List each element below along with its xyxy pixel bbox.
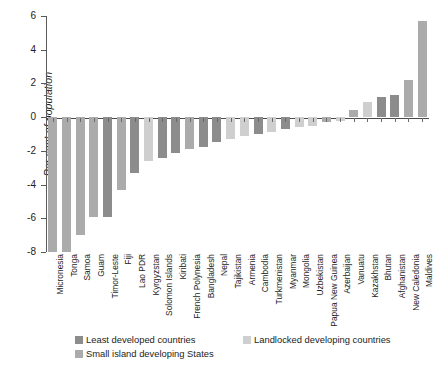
x-tick [121, 118, 122, 122]
bar [103, 117, 112, 216]
x-axis-label: Timor-Leste [111, 254, 119, 298]
bar [418, 21, 427, 117]
legend-item: Least developed countries [75, 334, 195, 345]
x-tick [244, 118, 245, 122]
x-tick [53, 118, 54, 122]
x-tick [231, 118, 232, 122]
x-tick [422, 118, 423, 122]
x-axis-label: Fiji [124, 254, 132, 265]
x-axis-label: Tajikistan [234, 254, 242, 288]
x-axis-label: Papua New Guinea [330, 254, 338, 327]
x-tick [285, 118, 286, 122]
x-tick [67, 118, 68, 122]
x-axis-label: Kyrgyzstan [152, 254, 160, 295]
x-axis-label: Afghanistan [398, 254, 406, 298]
x-tick [408, 118, 409, 122]
x-axis-label: Lao PDR [138, 254, 146, 288]
x-axis-label: Solomon Islands [165, 254, 173, 316]
legend-label: Landlocked developing countries [254, 334, 391, 345]
x-axis-label: Turkmenistan [275, 254, 283, 304]
x-axis-label: Vanuatu [357, 254, 365, 285]
bar [144, 117, 153, 161]
y-tick [41, 252, 46, 253]
x-tick [149, 118, 150, 122]
x-axis-label: Bangladesh [207, 254, 215, 298]
chart-container: Per cent of population 6420-2-4-6-8 Micr… [0, 0, 441, 369]
chart-legend: Least developed countriesLandlocked deve… [0, 332, 441, 366]
x-axis-label: Cambodia [261, 254, 269, 292]
y-tick-label: -4 [0, 179, 36, 190]
x-axis-label: Armenia [248, 254, 256, 285]
x-axis-label: Micronesia [56, 254, 64, 295]
x-tick [94, 118, 95, 122]
x-tick [326, 118, 327, 122]
bar [390, 95, 399, 117]
x-axis-labels: MicronesiaTongaSamoaGuamTimor-LesteFijiL… [46, 254, 429, 330]
legend-label: Small island developing States [86, 348, 214, 359]
bar [377, 97, 386, 117]
x-axis-label: Guam [97, 254, 105, 277]
x-tick [258, 118, 259, 122]
x-tick [190, 118, 191, 122]
x-axis-label: Bhutan [384, 254, 392, 281]
bar [158, 117, 167, 157]
y-tick-label: -6 [0, 212, 36, 223]
x-tick [135, 118, 136, 122]
bar [117, 117, 126, 189]
legend-item: Small island developing States [75, 348, 214, 359]
legend-swatch [243, 336, 251, 344]
x-tick [203, 118, 204, 122]
bar [48, 117, 57, 252]
x-tick [108, 118, 109, 122]
y-tick-label: 0 [0, 111, 36, 122]
plot-area [46, 16, 429, 252]
x-tick [313, 118, 314, 122]
legend-swatch [75, 350, 83, 358]
x-tick [354, 118, 355, 122]
x-axis-label: Kazakhstan [371, 254, 379, 298]
x-axis-label: New Caledonia [412, 254, 420, 311]
bar [62, 117, 71, 252]
x-tick [80, 118, 81, 122]
x-axis-label: French Polynesia [193, 254, 201, 319]
x-tick [340, 118, 341, 122]
x-tick [217, 118, 218, 122]
x-tick [162, 118, 163, 122]
legend-label: Least developed countries [86, 334, 195, 345]
x-axis-label: Maldives [425, 254, 433, 287]
x-tick [176, 118, 177, 122]
y-tick-label: 4 [0, 44, 36, 55]
x-axis-label: Mongolia [302, 254, 310, 288]
y-tick-label: 6 [0, 10, 36, 21]
x-axis-label: Myanmar [289, 254, 297, 289]
bar [349, 110, 358, 117]
x-tick [395, 118, 396, 122]
x-axis-label: Tonga [70, 254, 78, 277]
x-axis-label: Kiribati [179, 254, 187, 280]
bar [89, 117, 98, 216]
y-tick-label: -2 [0, 145, 36, 156]
bar [76, 117, 85, 235]
legend-item: Landlocked developing countries [243, 334, 391, 345]
x-axis-label: Samoa [83, 254, 91, 281]
bar [363, 102, 372, 117]
x-tick [367, 118, 368, 122]
x-axis-label: Azerbaijan [343, 254, 351, 294]
y-tick-label: 2 [0, 77, 36, 88]
bar [404, 80, 413, 117]
x-tick [299, 118, 300, 122]
x-tick [272, 118, 273, 122]
x-axis-label: Uzbekistan [316, 254, 324, 295]
bar [130, 117, 139, 173]
legend-swatch [75, 336, 83, 344]
x-tick [381, 118, 382, 122]
y-tick-label: -8 [0, 246, 36, 257]
x-axis-label: Nepal [220, 254, 228, 276]
bar [171, 117, 180, 152]
